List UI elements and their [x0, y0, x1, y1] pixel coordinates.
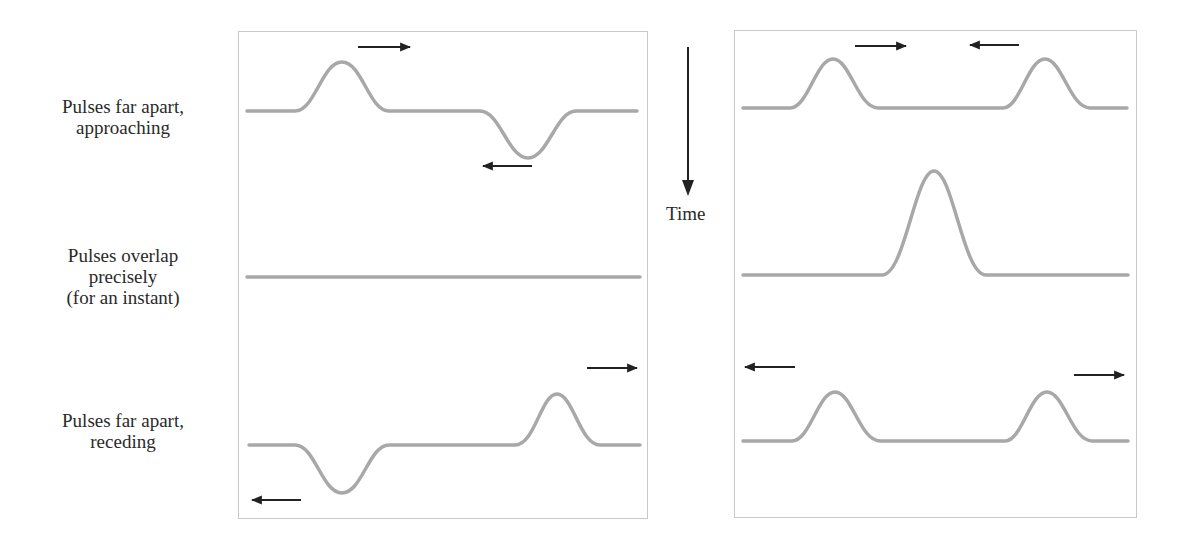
string-wave: [743, 392, 1128, 441]
string-wave: [249, 394, 640, 493]
time-arrow-icon: [682, 47, 694, 196]
diagram-canvas: [0, 0, 1188, 549]
string-wave: [743, 171, 1128, 275]
string-wave: [743, 59, 1127, 108]
string-wave: [247, 62, 637, 158]
